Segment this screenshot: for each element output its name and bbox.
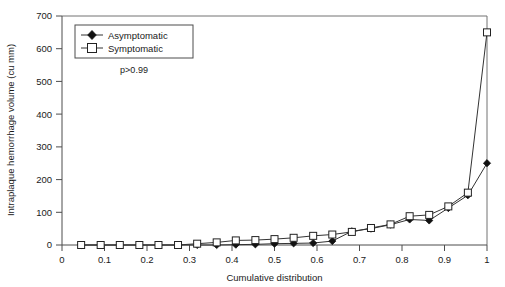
data-point-open-square (445, 203, 452, 210)
data-point-open-square (271, 236, 278, 243)
legend-label-asymptomatic: Asymptomatic (108, 30, 168, 41)
data-point-open-square (426, 211, 433, 218)
y-tick-label-700: 700 (36, 10, 52, 21)
chart-legend: Asymptomatic Symptomatic (75, 25, 193, 58)
data-point-open-square (232, 237, 239, 244)
series-asymptomatic (78, 160, 491, 249)
series-symptomatic (78, 29, 491, 249)
series-line-asymptomatic (81, 163, 487, 245)
data-point-open-square (406, 213, 413, 220)
x-tick-label-0.2: 0.2 (140, 254, 153, 265)
y-tick-label-300: 300 (36, 141, 52, 152)
data-point-open-square (464, 189, 471, 196)
y-tick-label-200: 200 (36, 174, 52, 185)
data-point-open-square (367, 224, 374, 231)
x-tick-label-0.3: 0.3 (183, 254, 196, 265)
data-point-open-square (194, 240, 201, 247)
y-axis-title: Intraplaque hemorrhage volume (cu mm) (5, 44, 16, 216)
data-point-open-square (97, 242, 104, 249)
x-tick-label-0.1: 0.1 (98, 254, 111, 265)
x-tick-label-0.9: 0.9 (438, 254, 451, 265)
y-tick-label-100: 100 (36, 207, 52, 218)
data-point-open-square (155, 242, 162, 249)
x-tick-label-0.7: 0.7 (353, 254, 366, 265)
data-point-open-square (387, 221, 394, 228)
series-layer (78, 29, 491, 249)
chart-figure: 0 100 200 300 400 500 600 700 0 0.1 0.2 (0, 0, 505, 287)
data-point-open-square (290, 234, 297, 241)
data-point-filled-diamond (329, 237, 336, 244)
data-point-filled-diamond (483, 160, 490, 167)
y-tick-label-0: 0 (47, 239, 52, 250)
data-point-open-square (78, 242, 85, 249)
data-point-open-square (116, 242, 123, 249)
pvalue-annotation: p>0.99 (120, 65, 148, 75)
legend-label-symptomatic: Symptomatic (108, 43, 163, 54)
data-point-open-square (252, 237, 259, 244)
data-point-filled-diamond (310, 239, 317, 246)
y-tick-label-400: 400 (36, 109, 52, 120)
data-point-open-square (348, 228, 355, 235)
data-point-open-square (484, 29, 491, 36)
y-tick-label-600: 600 (36, 43, 52, 54)
x-axis-ticks: 0 0.1 0.2 0.3 0.4 0.5 0.6 0.7 0.8 0.9 1 (59, 245, 489, 265)
data-point-open-square (213, 239, 220, 246)
x-tick-label-0.8: 0.8 (395, 254, 408, 265)
line-chart-canvas: 0 100 200 300 400 500 600 700 0 0.1 0.2 (0, 0, 505, 287)
x-tick-label-0: 0 (59, 254, 64, 265)
data-point-open-square (310, 232, 317, 239)
open-square-icon (88, 44, 97, 53)
y-axis-ticks: 0 100 200 300 400 500 600 700 (36, 10, 62, 250)
data-point-open-square (329, 231, 336, 238)
y-tick-label-500: 500 (36, 76, 52, 87)
data-point-open-square (136, 242, 143, 249)
data-point-open-square (175, 242, 182, 249)
x-axis-title: Cumulative distribution (226, 272, 322, 283)
x-tick-label-0.4: 0.4 (225, 254, 238, 265)
x-tick-label-0.5: 0.5 (268, 254, 281, 265)
x-tick-label-0.6: 0.6 (310, 254, 323, 265)
x-tick-label-1: 1 (484, 254, 489, 265)
